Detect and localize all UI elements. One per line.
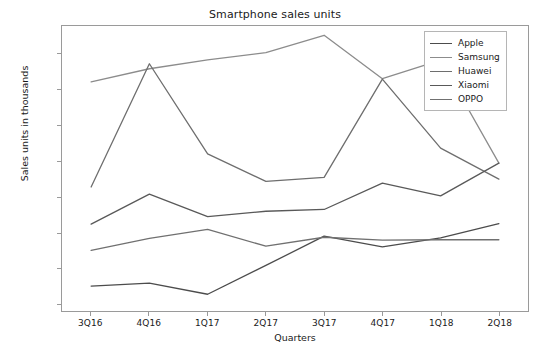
legend-item-oppo[interactable]: OPPO: [430, 92, 500, 106]
x-tick-mark: [324, 312, 325, 316]
legend-line-swatch: [430, 71, 452, 72]
chart-legend: AppleSamsungHuaweiXiaomiOPPO: [424, 31, 507, 111]
legend-label: Huawei: [458, 66, 491, 76]
x-tick-label: 4Q16: [119, 318, 179, 328]
chart-figure: Smartphone sales units 10000200003000040…: [0, 0, 550, 355]
legend-line-swatch: [430, 85, 452, 86]
x-tick-mark: [90, 312, 91, 316]
x-tick-label: 2Q17: [236, 318, 296, 328]
x-tick-mark: [148, 312, 149, 316]
legend-item-huawei[interactable]: Huawei: [430, 64, 500, 78]
chart-title: Smartphone sales units: [0, 8, 550, 21]
legend-line-swatch: [430, 99, 452, 100]
series-line-apple: [91, 224, 499, 295]
x-tick-label: 3Q17: [294, 318, 354, 328]
x-tick-label: 2Q18: [470, 318, 530, 328]
legend-label: Apple: [458, 38, 484, 48]
legend-line-swatch: [430, 57, 452, 58]
series-line-oppo: [91, 229, 499, 250]
x-tick-label: 1Q18: [411, 318, 471, 328]
series-line-xiaomi: [91, 163, 499, 224]
legend-label: Xiaomi: [458, 80, 489, 90]
x-tick-label: 4Q17: [353, 318, 413, 328]
y-axis-label: Sales units in thousands: [19, 34, 30, 214]
x-axis-label: Quarters: [61, 332, 529, 343]
legend-line-swatch: [430, 43, 452, 44]
x-tick-mark: [441, 312, 442, 316]
legend-label: Samsung: [458, 52, 500, 62]
legend-label: OPPO: [458, 94, 483, 104]
x-tick-mark: [499, 312, 500, 316]
x-tick-mark: [265, 312, 266, 316]
legend-item-xiaomi[interactable]: Xiaomi: [430, 78, 500, 92]
legend-item-apple[interactable]: Apple: [430, 36, 500, 50]
legend-item-samsung[interactable]: Samsung: [430, 50, 500, 64]
x-tick-mark: [382, 312, 383, 316]
x-tick-label: 1Q17: [177, 318, 237, 328]
x-tick-mark: [207, 312, 208, 316]
x-tick-label: 3Q16: [60, 318, 120, 328]
